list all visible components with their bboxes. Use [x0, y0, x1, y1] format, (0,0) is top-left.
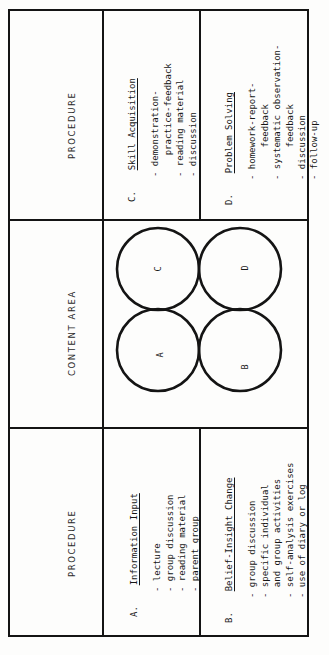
- venn-label-b: B: [240, 364, 250, 369]
- procedure-list-d: - homework-report- feedback - systematic…: [246, 45, 320, 180]
- procedure-list-c: - demonstration- practice-feedback - rea…: [149, 63, 199, 177]
- procedure-key-c: C.: [127, 191, 137, 202]
- list-item: - self-analysis exercises: [284, 463, 296, 598]
- list-item: - reading material: [174, 63, 186, 177]
- procedure-heading-b: B. Belief-Insight Change: [223, 463, 235, 623]
- list-item: - systematic observation-: [271, 45, 283, 180]
- procedure-key-d: D.: [224, 194, 234, 205]
- list-item: - follow-up: [308, 45, 320, 180]
- procedure-cell-b: B. Belief-Insight Change - group discuss…: [199, 427, 309, 637]
- procedure-block-d: D. Problem Solving - homework-report- fe…: [223, 45, 321, 205]
- procedure-title-b: Belief-Insight Change: [224, 478, 234, 592]
- procedure-title-d: Problem Solving: [224, 92, 234, 173]
- list-item: - discussion: [187, 63, 199, 177]
- list-item: - lecture: [151, 493, 163, 592]
- page-title-content-area: CONTENT AREA: [67, 290, 77, 376]
- list-item: feedback: [284, 45, 296, 180]
- list-item: - discussion: [296, 45, 308, 180]
- header-cell-procedure-bottom: PROCEDURE: [8, 427, 102, 637]
- procedure-cell-a: A. Information Input - lecture - group d…: [102, 427, 199, 637]
- procedure-list-a: - lecture - group discussion - reading m…: [151, 493, 201, 592]
- list-item: - reading material: [176, 493, 188, 592]
- list-item: practice-feedback: [162, 63, 174, 177]
- header-cell-procedure-top: PROCEDURE: [8, 9, 102, 220]
- list-item: and group activities: [271, 463, 283, 598]
- procedure-heading-a: A. Information Input: [128, 493, 140, 617]
- list-item: - homework-report-: [246, 45, 258, 180]
- list-item: - specific individual: [259, 463, 271, 598]
- list-item: - demonstration-: [149, 63, 161, 177]
- list-item: - use of diary or log: [296, 463, 308, 598]
- list-item: - group discussion: [246, 463, 258, 598]
- venn-label-c: C: [153, 266, 163, 271]
- venn-label-d: D: [240, 265, 250, 270]
- procedure-block-b: B. Belief-Insight Change - group discuss…: [223, 463, 308, 623]
- venn-circle-a: [117, 309, 199, 391]
- procedure-list-b: - group discussion - specific individual…: [246, 463, 308, 598]
- procedure-block-a: A. Information Input - lecture - group d…: [128, 493, 201, 617]
- page-title-procedure-top: PROCEDURE: [67, 92, 77, 159]
- page-title-procedure-bottom: PROCEDURE: [67, 510, 77, 577]
- list-item: feedback: [259, 45, 271, 180]
- procedure-heading-d: D. Problem Solving: [223, 45, 235, 205]
- venn-label-a: A: [155, 352, 165, 357]
- venn-diagram: C D A B: [102, 219, 309, 428]
- procedure-heading-c: C. Skill Acquisition: [126, 63, 138, 202]
- procedure-key-a: A.: [129, 606, 139, 617]
- venn-circle-b: [199, 309, 281, 391]
- figure-page: PROCEDURE C. Skill Acquisition - demonst…: [0, 0, 329, 655]
- procedure-title-c: Skill Acquisition: [127, 78, 137, 170]
- header-cell-content-area: CONTENT AREA: [8, 219, 102, 428]
- list-item: - group discussion: [164, 493, 176, 592]
- procedure-key-b: B.: [224, 612, 234, 623]
- procedure-block-c: C. Skill Acquisition - demonstration- pr…: [126, 63, 199, 202]
- procedure-cell-c: C. Skill Acquisition - demonstration- pr…: [102, 9, 199, 220]
- procedure-cell-d: D. Problem Solving - homework-report- fe…: [199, 9, 309, 220]
- procedure-title-a: Information Input: [129, 493, 139, 585]
